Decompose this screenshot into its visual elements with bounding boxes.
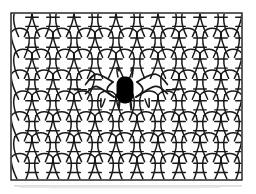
knit-fabric-figure: Knitted fabric structure diagram with ce… <box>0 0 256 194</box>
knit-structure-diagram <box>0 0 256 194</box>
broken-stitch-marker <box>117 77 134 104</box>
